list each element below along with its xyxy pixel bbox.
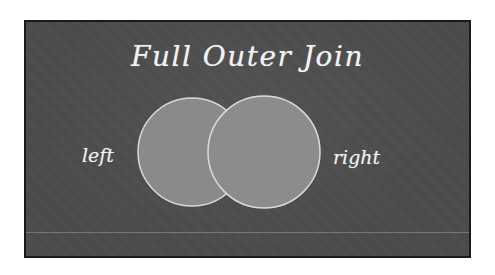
divider-line	[26, 232, 469, 233]
right-circle	[208, 96, 320, 208]
left-label: left	[82, 144, 114, 166]
slide-panel: Full Outer Join left right	[24, 20, 471, 258]
venn-diagram	[26, 22, 471, 258]
right-label: right	[333, 146, 380, 168]
